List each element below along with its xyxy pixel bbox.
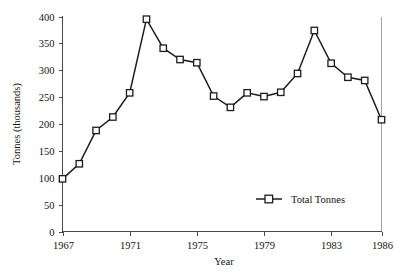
data-point-1982 — [311, 27, 317, 33]
y-axis-title: Tonnes (thousands) — [11, 83, 23, 165]
data-point-1977 — [227, 104, 233, 110]
x-tick-label-1986: 1986 — [372, 240, 393, 251]
data-point-1974 — [177, 56, 183, 62]
chart-figure: 050100150200250300350400 196719711975197… — [0, 0, 394, 280]
y-tick-label-250: 250 — [39, 92, 55, 103]
data-point-1973 — [160, 45, 166, 51]
legend-label-total-tonnes: Total Tonnes — [291, 194, 345, 205]
data-point-1985 — [362, 77, 368, 83]
y-tick-label-300: 300 — [39, 65, 55, 76]
x-tick-label-1967: 1967 — [53, 240, 74, 251]
chart-background — [0, 0, 394, 280]
y-tick-label-100: 100 — [39, 173, 55, 184]
x-tick-label-1979: 1979 — [254, 240, 275, 251]
data-point-1976 — [210, 93, 216, 99]
data-point-1983 — [328, 60, 334, 66]
x-tick-label-1983: 1983 — [321, 240, 342, 251]
y-tick-label-350: 350 — [39, 38, 55, 49]
x-tick-label-1975: 1975 — [187, 240, 208, 251]
data-point-1984 — [345, 74, 351, 80]
legend-marker-square — [265, 195, 273, 203]
chart-legend: Total Tonnes — [256, 194, 345, 205]
data-point-1971 — [126, 90, 132, 96]
line-chart-canvas: 050100150200250300350400 196719711975197… — [0, 0, 394, 280]
data-point-1972 — [143, 16, 149, 22]
data-point-1986 — [378, 117, 384, 123]
y-tick-label-200: 200 — [39, 119, 55, 130]
data-point-1970 — [110, 114, 116, 120]
data-point-1979 — [261, 93, 267, 99]
data-point-1978 — [244, 90, 250, 96]
data-point-1969 — [93, 127, 99, 133]
data-point-1975 — [194, 60, 200, 66]
data-point-1968 — [76, 161, 82, 167]
data-point-1980 — [278, 89, 284, 95]
y-tick-label-50: 50 — [44, 200, 55, 211]
y-tick-label-150: 150 — [39, 146, 55, 157]
x-axis-title: Year — [214, 256, 234, 267]
x-tick-label-1971: 1971 — [120, 240, 141, 251]
data-point-1981 — [294, 70, 300, 76]
data-point-1967 — [59, 176, 65, 182]
y-tick-label-400: 400 — [39, 12, 55, 23]
y-tick-label-0: 0 — [49, 227, 54, 238]
